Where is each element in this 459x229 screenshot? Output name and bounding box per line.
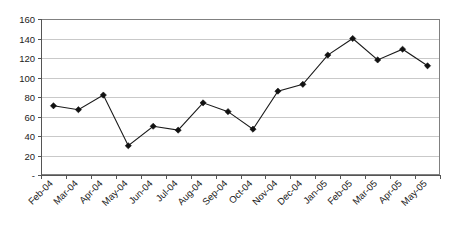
x-axis-tick-label: Sep-04 (200, 178, 229, 207)
x-axis-tick-labels: Feb-04Mar-04Apr-04May-04Jun-04Jul-04Aug-… (26, 178, 429, 208)
y-axis-tick-label: 120 (19, 53, 35, 64)
x-axis-tick-label: Feb-05 (325, 178, 354, 207)
x-axis-tick-label: Oct-04 (226, 178, 254, 206)
y-axis-tick-label: 140 (19, 34, 35, 45)
x-axis-tick-label: May-04 (100, 178, 130, 208)
x-axis-tick-label: Feb-04 (26, 178, 55, 207)
y-axis-tick-label: 40 (24, 131, 35, 142)
y-axis-tick-label: 80 (24, 92, 35, 103)
x-axis-tick-label: Dec-04 (275, 178, 304, 207)
x-axis-tick-label: May-05 (399, 178, 429, 208)
y-axis-tick-label: - (32, 170, 35, 181)
x-axis-tick-label: Mar-05 (350, 178, 379, 207)
x-axis-tick-label: Aug-04 (175, 178, 204, 207)
chart-canvas: -20406080100120140160Feb-04Mar-04Apr-04M… (0, 0, 459, 229)
x-axis-tick-label: Mar-04 (51, 178, 80, 207)
x-axis-tick-label: Nov-04 (250, 178, 279, 207)
y-axis-tick-label: 100 (19, 73, 35, 84)
y-axis-tick-label: 20 (24, 151, 35, 162)
x-axis-tick-label: Jan-05 (301, 178, 329, 206)
y-axis-tick-label: 60 (24, 112, 35, 123)
x-axis-tick-label: Jun-04 (126, 178, 154, 206)
y-axis-tick-label: 160 (19, 14, 35, 25)
line-chart: -20406080100120140160Feb-04Mar-04Apr-04M… (0, 0, 459, 229)
y-axis-tick-labels: -20406080100120140160 (19, 14, 41, 181)
